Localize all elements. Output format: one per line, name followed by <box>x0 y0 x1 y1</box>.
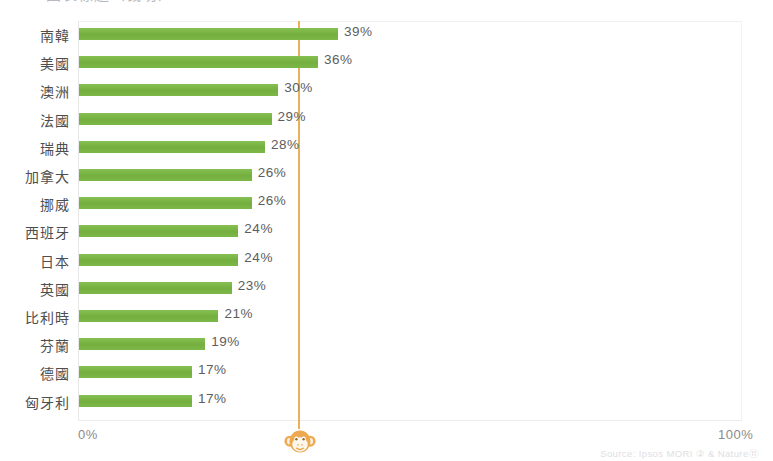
category-label: 瑞典 <box>0 138 70 158</box>
category-label: 匈牙利 <box>0 392 70 412</box>
page-title: 圖表標題（裁切） <box>46 0 174 4</box>
bar <box>79 84 278 96</box>
bar <box>79 113 272 125</box>
bar-row: 日本24% <box>0 248 773 276</box>
bar <box>79 282 232 294</box>
bar-value-label: 23% <box>238 278 267 293</box>
category-label: 英國 <box>0 279 70 299</box>
bar-row: 比利時21% <box>0 304 773 332</box>
bar-chart: 南韓39%美國36%澳洲30%法國29%瑞典28%加拿大26%挪威26%西班牙2… <box>0 16 773 458</box>
bar-row: 德國17% <box>0 360 773 388</box>
category-label: 南韓 <box>0 25 70 45</box>
bar-row: 法國29% <box>0 107 773 135</box>
bar-row: 澳洲30% <box>0 78 773 106</box>
bar-value-label: 19% <box>211 334 240 349</box>
category-label: 挪威 <box>0 194 70 214</box>
bar <box>79 310 218 322</box>
bar-value-label: 36% <box>324 52 353 67</box>
bar-row: 挪威26% <box>0 191 773 219</box>
category-label: 西班牙 <box>0 222 70 242</box>
bar-value-label: 30% <box>284 80 313 95</box>
bar <box>79 169 252 181</box>
bar-value-label: 26% <box>258 193 287 208</box>
bar-value-label: 39% <box>344 24 373 39</box>
bar <box>79 141 265 153</box>
bar-row: 加拿大26% <box>0 163 773 191</box>
bar-row: 匈牙利17% <box>0 389 773 417</box>
source-credit: Source: Ipsos MORI ② & Nature⑪ <box>600 446 759 460</box>
monkey-logo-icon <box>283 427 317 457</box>
bar-row: 西班牙24% <box>0 219 773 247</box>
category-label: 日本 <box>0 251 70 271</box>
bar-value-label: 28% <box>271 137 300 152</box>
category-label: 芬蘭 <box>0 335 70 355</box>
bar-value-label: 17% <box>198 391 227 406</box>
bar <box>79 338 205 350</box>
x-axis-min-label: 0% <box>78 427 98 442</box>
bar-row: 南韓39% <box>0 22 773 50</box>
category-label: 澳洲 <box>0 81 70 101</box>
bar <box>79 395 192 407</box>
bar-row: 英國23% <box>0 276 773 304</box>
bar-value-label: 21% <box>224 306 253 321</box>
category-label: 比利時 <box>0 307 70 327</box>
category-label: 德國 <box>0 363 70 383</box>
category-label: 加拿大 <box>0 166 70 186</box>
bar <box>79 366 192 378</box>
category-label: 美國 <box>0 53 70 73</box>
bar-row: 芬蘭19% <box>0 332 773 360</box>
bar-row: 瑞典28% <box>0 135 773 163</box>
bar-row: 美國36% <box>0 50 773 78</box>
bar <box>79 254 238 266</box>
bar-value-label: 26% <box>258 165 287 180</box>
x-axis-max-label: 100% <box>718 427 753 442</box>
cropped-title-strip: 圖表標題（裁切） <box>0 0 773 16</box>
bar-value-label: 29% <box>278 109 307 124</box>
bar-value-label: 24% <box>244 250 273 265</box>
bar <box>79 56 318 68</box>
bar <box>79 225 238 237</box>
category-label: 法國 <box>0 110 70 130</box>
bar-value-label: 17% <box>198 362 227 377</box>
bar <box>79 197 252 209</box>
bar-value-label: 24% <box>244 221 273 236</box>
bar <box>79 28 338 40</box>
